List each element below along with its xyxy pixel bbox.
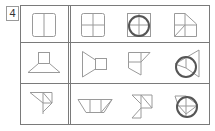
shape-folded-square-circle-icon xyxy=(175,96,198,117)
shape-four-panel-square-icon xyxy=(82,14,105,37)
shape-folded-triangle-icon xyxy=(30,93,52,115)
shape-trapezoid-square-right-icon xyxy=(83,52,107,78)
shape-trapezoid-square-top-icon xyxy=(28,53,60,73)
figure-reasoning-grid xyxy=(0,0,215,131)
shape-square-with-circle-icon xyxy=(128,14,151,37)
shape-zigzag-triangles-icon xyxy=(132,95,152,118)
shape-two-panel-square-icon xyxy=(33,14,56,37)
shape-folded-square-icon xyxy=(129,53,151,76)
shape-cut-corner-square-icon xyxy=(175,14,197,37)
shape-inverted-trapezoid-icon xyxy=(78,100,112,113)
shape-cone-with-circle-icon xyxy=(175,50,199,77)
